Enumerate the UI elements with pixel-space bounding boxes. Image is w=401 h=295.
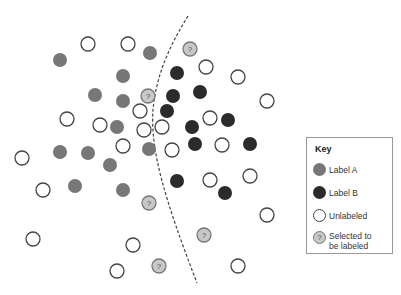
question-mark-icon: ? <box>147 199 152 208</box>
legend-item-unlabeled: Unlabeled <box>313 209 367 222</box>
unlabeled-circle-icon <box>313 209 326 222</box>
label-a-point <box>103 158 117 172</box>
label-a-point <box>81 146 95 160</box>
question-mark-icon: ? <box>188 45 193 54</box>
legend-label: Selected to be labeled <box>329 231 381 251</box>
label-b-point <box>188 137 202 151</box>
unlabeled-point <box>121 37 135 51</box>
question-mark-icon: ? <box>202 231 207 240</box>
legend-label: Unlabeled <box>329 211 367 221</box>
label-b-point <box>160 104 174 118</box>
label-a-point <box>116 69 130 83</box>
unlabeled-point <box>116 139 130 153</box>
unlabeled-point <box>203 111 217 125</box>
label-a-point <box>142 142 156 156</box>
unlabeled-point <box>26 232 40 246</box>
unlabeled-point <box>93 118 107 132</box>
legend-title: Key <box>315 144 332 154</box>
legend-label: Label B <box>329 188 358 198</box>
label-b-point <box>166 89 180 103</box>
unlabeled-point <box>243 169 257 183</box>
question-mark-icon: ? <box>157 262 162 271</box>
unlabeled-point <box>126 238 140 252</box>
unlabeled-point <box>155 120 169 134</box>
label-a-point <box>116 183 130 197</box>
unlabeled-point <box>203 173 217 187</box>
question-mark-circle-icon: ? <box>313 231 326 244</box>
label-a-circle-icon <box>313 163 326 176</box>
unlabeled-point <box>15 151 29 165</box>
label-b-point <box>185 120 199 134</box>
legend-item-selected: ? Selected to be labeled <box>313 231 381 251</box>
legend-key: Key Label A Label B Unlabeled ? Selected… <box>306 137 393 254</box>
unlabeled-point <box>110 264 124 278</box>
unlabeled-point <box>215 138 229 152</box>
label-a-point <box>88 88 102 102</box>
unlabeled-point <box>165 143 179 157</box>
label-b-point <box>193 85 207 99</box>
label-b-point <box>218 186 232 200</box>
unlabeled-point <box>199 60 213 74</box>
unlabeled-point <box>133 104 147 118</box>
unlabeled-point <box>137 123 151 137</box>
legend-item-label-b: Label B <box>313 186 358 199</box>
unlabeled-point <box>231 259 245 273</box>
question-mark-icon: ? <box>146 92 151 101</box>
label-a-point <box>116 94 130 108</box>
unlabeled-points <box>15 37 274 278</box>
label-a-point <box>53 145 67 159</box>
label-b-point <box>170 174 184 188</box>
label-a-point <box>53 53 67 67</box>
label-b-point <box>221 113 235 127</box>
legend-label: Label A <box>329 165 357 175</box>
unlabeled-point <box>260 94 274 108</box>
unlabeled-point <box>231 70 245 84</box>
label-b-point <box>170 66 184 80</box>
label-a-point <box>68 179 82 193</box>
label-b-point <box>243 137 257 151</box>
unlabeled-point <box>260 208 274 222</box>
label-a-point <box>143 46 157 60</box>
unlabeled-point <box>36 183 50 197</box>
legend-item-label-a: Label A <box>313 163 357 176</box>
unlabeled-point <box>60 112 74 126</box>
label-a-point <box>110 120 124 134</box>
label-b-circle-icon <box>313 186 326 199</box>
unlabeled-point <box>81 37 95 51</box>
